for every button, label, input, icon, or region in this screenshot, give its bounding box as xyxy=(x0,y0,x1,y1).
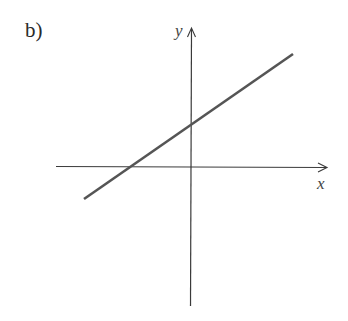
coordinate-plot xyxy=(0,0,348,321)
y-axis xyxy=(191,29,192,306)
plotted-line xyxy=(84,54,293,199)
